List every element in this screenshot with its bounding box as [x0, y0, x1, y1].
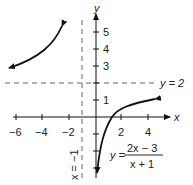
x-tick-label: −6: [9, 126, 22, 138]
svg-text:x + 1: x + 1: [130, 158, 154, 170]
y-tick-label: 1: [103, 94, 109, 106]
y-tick-label: 4: [103, 43, 109, 55]
svg-text:y =: y =: [109, 149, 126, 161]
svg-text:2x − 3: 2x − 3: [127, 142, 157, 154]
curve-left-branch: [9, 26, 62, 68]
function-graph: y x −6 −4 −2 2 4 1 3 4 5 y = 2 x = −1 y …: [0, 0, 193, 185]
x-tick-label: −2: [62, 126, 75, 138]
y-tick-label: 3: [103, 60, 109, 72]
horizontal-asymptote-label: y = 2: [159, 77, 184, 89]
x-tick-label: −4: [35, 126, 48, 138]
vertical-asymptote-label: x = −1: [68, 149, 80, 180]
equation-label: y = 2x − 3 x + 1: [109, 142, 163, 170]
x-tick-label: 2: [118, 126, 124, 138]
x-axis-label: x: [173, 111, 180, 123]
x-tick-label: 4: [145, 126, 151, 138]
y-axis-label: y: [93, 2, 101, 14]
y-tick-label: 5: [103, 26, 109, 38]
